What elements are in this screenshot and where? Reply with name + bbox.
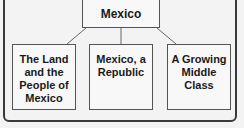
child-node-land-people: The Land and the People of Mexico [12, 44, 76, 110]
child-node-middle-class: A Growing Middle Class [167, 44, 231, 110]
child-node-republic: Mexico, a Republic [89, 44, 153, 110]
root-node: Mexico [82, 0, 160, 28]
